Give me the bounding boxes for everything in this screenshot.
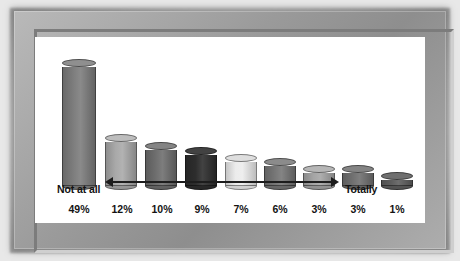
cylinder-bar [381,168,413,186]
cylinder-top-cap [225,154,257,162]
cylinder-top-cap [303,165,335,173]
cylinder-top-cap [62,59,96,67]
bar-percentage-label: 7% [221,203,261,215]
scale-label-not-at-all: Not at all [57,183,100,195]
cylinder-top-cap [381,172,413,180]
bar-percentage-label: 3% [299,203,339,215]
cylinder-top-cap [342,165,374,173]
bar-percentage-label: 1% [377,203,417,215]
bar-percentage-label: 49% [59,203,99,215]
arrow-head-right-icon [331,177,339,187]
cylinder-top-cap [145,142,177,150]
chart-screenshot: Not at all Totally 49%12%10%9%7%6%3%3%1% [0,0,460,261]
cylinder-top-cap [185,147,217,155]
scale-label-totally: Totally [345,183,377,195]
cylinder-top-cap [264,158,296,166]
cylinder-top-cap [105,134,137,142]
bar-percentage-label: 3% [338,203,378,215]
cylinder-bar [62,55,96,186]
bar-percentage-label: 12% [102,203,142,215]
cylinder-body [381,180,413,186]
cylinder-body [62,67,96,186]
bar-percentage-label: 6% [260,203,300,215]
cylinder-bar-group [35,37,425,223]
arrow-line [111,181,333,183]
bar-percentage-label: 9% [182,203,222,215]
bar-percentage-label: 10% [142,203,182,215]
scale-arrow [105,177,339,187]
chart-plot-area: Not at all Totally 49%12%10%9%7%6%3%3%1% [35,37,425,223]
